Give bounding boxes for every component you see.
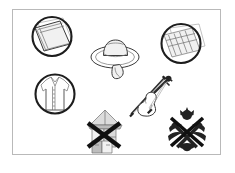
cushion-icon	[27, 14, 79, 64]
pavilion-icon	[78, 101, 132, 157]
item-circled-tray[interactable]	[155, 18, 211, 70]
panel-frame	[12, 9, 221, 155]
item-circled-cushion[interactable]	[27, 14, 79, 64]
shirt-icon	[29, 70, 81, 120]
cross-out-mark	[171, 118, 203, 146]
item-crossed-emblem[interactable]	[160, 104, 214, 156]
tray-icon	[155, 18, 211, 70]
item-crossed-pavilion[interactable]	[78, 101, 132, 157]
item-circled-shirt[interactable]	[29, 70, 81, 120]
emblem-icon	[160, 104, 214, 156]
illustration-canvas	[0, 0, 235, 173]
